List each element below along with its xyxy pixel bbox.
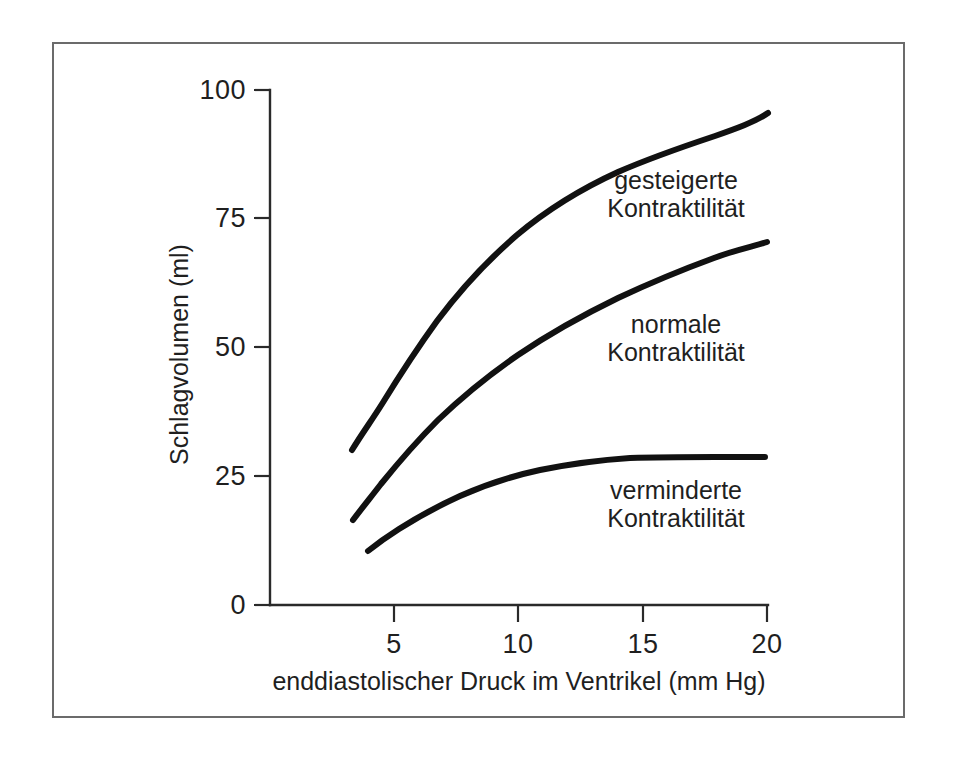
x-axis-tick-label-15: 15 [627,629,658,660]
y-axis-title: Schlagvolumen (ml) [165,244,194,465]
x-axis-tick-label-10: 10 [502,629,533,660]
curve-label-normale-line1: normale [607,310,745,338]
y-axis-tick-label-75: 75 [170,203,246,234]
curve-label-verminderte-line2: Kontraktilität [607,504,745,532]
curve-gesteigerte-kontraktilitaet [352,113,768,450]
curve-label-verminderte: verminderte Kontraktilität [607,476,745,532]
y-axis-tick-label-0: 0 [170,590,246,621]
x-axis-tick-label-5: 5 [386,629,402,660]
y-axis-tick-label-100: 100 [170,75,246,106]
figure-root: 100 75 50 25 0 5 10 15 20 enddiastolisch… [0,0,955,762]
x-axis-title: enddiastolischer Druck im Ventrikel (mm … [272,667,765,696]
curve-label-gesteigerte-line1: gesteigerte [607,166,745,194]
x-axis-tick-label-20: 20 [751,629,782,660]
curve-label-verminderte-line1: verminderte [607,476,745,504]
curve-label-gesteigerte: gesteigerte Kontraktilität [607,166,745,222]
y-axis-tick-label-25: 25 [170,461,246,492]
curve-label-normale: normale Kontraktilität [607,310,745,366]
curve-label-normale-line2: Kontraktilität [607,338,745,366]
chart-canvas [0,0,955,762]
curve-label-gesteigerte-line2: Kontraktilität [607,194,745,222]
